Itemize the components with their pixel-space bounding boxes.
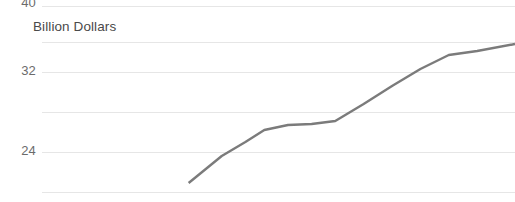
data-series-line: [189, 44, 515, 183]
series-layer: [0, 0, 515, 202]
line-chart: 40 32 24 Billion Dollars: [0, 0, 515, 202]
